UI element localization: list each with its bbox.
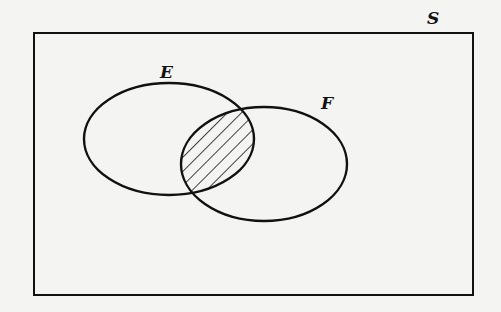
set-e-label: E xyxy=(159,62,174,82)
venn-diagram: S E F xyxy=(0,0,501,312)
universe-label: S xyxy=(427,8,439,28)
universe-rectangle xyxy=(34,33,473,295)
set-f-label: F xyxy=(320,93,335,113)
